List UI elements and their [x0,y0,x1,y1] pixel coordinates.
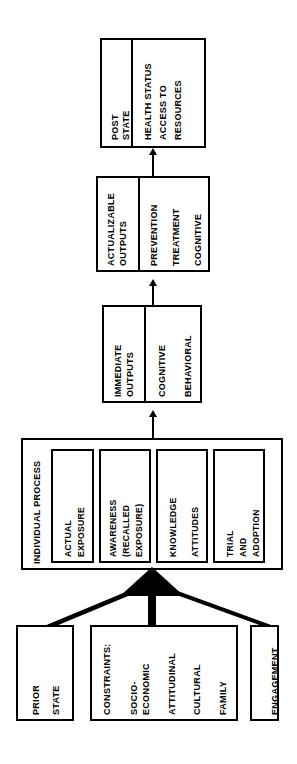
edge-individual-to-immediate-line [152,417,154,438]
subbox-trial-line3: ADOPTION [252,509,261,557]
actualizable-item-cognitive: COGNITIVE [194,214,203,266]
post-state-item-health-status: HEALTH STATUS [144,63,153,140]
prior-state-line2: STATE [52,685,61,715]
immediate-header-line2: OUTPUTS [126,352,135,397]
actualizable-header-line1: ACTUALIZABLE [107,193,116,266]
edge-immediate-to-actualizable-arrowhead [149,279,157,286]
subbox-awareness-line2: (RECALLED [122,505,131,557]
constraints-header: CONSTRAINTS: [103,643,112,715]
immediate-divider [144,307,146,401]
diagram-canvas: POST STATE HEALTH STATUS ACCESS TO RESOU… [0,0,297,764]
immediate-item-cognitive: COGNITIVE [158,345,167,397]
immediate-header-line1: IMMEDIATE [114,344,123,397]
individual-process-subbox-actual-exposure: ACTUAL EXPOSURE [51,449,94,563]
edge-engagement-limb [152,586,274,626]
subbox-trial-line1: TRIAL [226,530,235,557]
edge-immediate-to-actualizable-line [152,286,154,305]
immediate-item-behavioral: BEHAVIORAL [184,335,193,397]
subbox-actual-exposure-line2: EXPOSURE [77,507,86,557]
post-state-divider [131,40,133,146]
subbox-knowledge-line2: ATTITUDES [191,507,200,557]
prior-state-line1: PRIOR [32,685,41,715]
edge-converging-arrowhead [120,567,184,596]
actualizable-divider [138,178,140,270]
post-state-item-access-to: ACCESS TO [159,85,168,140]
subbox-actual-exposure-line1: ACTUAL [64,520,73,557]
edge-actualizable-to-post-line [152,155,154,176]
edge-individual-to-immediate-arrowhead [149,410,157,417]
individual-process-subbox-knowledge: KNOWLEDGE ATTITUDES [156,449,208,563]
edge-prior-state-limb [44,586,152,626]
post-state-header-line1: POST [111,114,120,140]
node-post-state: POST STATE HEALTH STATUS ACCESS TO RESOU… [100,38,206,148]
engagement-label: ENGAGEMENT [271,647,280,715]
node-engagement: ENGAGEMENT [250,625,279,721]
actualizable-header-line2: OUTPUTS [119,221,128,266]
constraints-item-economic: ECONOMIC [142,663,151,715]
constraints-item-socio: SOCIO- [130,681,139,715]
node-prior-state: PRIOR STATE [16,625,74,721]
subbox-trial-line2: AND [239,537,248,557]
constraints-item-attitudinal: ATTITUDINAL [168,653,177,715]
node-actualizable-outputs: ACTUALIZABLE OUTPUTS PREVENTION TREATMEN… [96,176,210,272]
post-state-header-line2: STATE [122,110,131,140]
edge-constraints-stem [148,586,156,626]
actualizable-item-treatment: TREATMENT [172,208,181,266]
edge-actualizable-to-post-arrowhead [149,148,157,155]
individual-process-subbox-trial-adoption: TRIAL AND ADOPTION [213,449,265,563]
constraints-item-cultural: CULTURAL [193,664,202,715]
node-immediate-outputs: IMMEDIATE OUTPUTS COGNITIVE BEHAVIORAL [102,305,202,403]
constraints-item-family: FAMILY [219,681,228,715]
node-individual-process: INDIVIDUAL PROCESS ACTUAL EXPOSURE AWARE… [21,438,283,570]
actualizable-item-prevention: PREVENTION [150,204,159,266]
subbox-knowledge-line1: KNOWLEDGE [169,497,178,557]
post-state-item-resources: RESOURCES [174,80,183,140]
individual-process-subbox-awareness: AWARENESS (RECALLED EXPOSURE) [99,449,151,563]
node-constraints: CONSTRAINTS: SOCIO- ECONOMIC ATTITUDINAL… [90,625,238,721]
subbox-awareness-line1: AWARENESS [109,499,118,557]
subbox-awareness-line3: EXPOSURE) [135,504,144,557]
individual-process-header: INDIVIDUAL PROCESS [33,461,42,564]
